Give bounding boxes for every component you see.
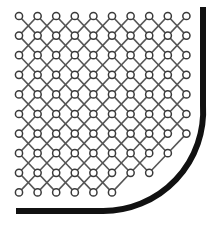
lattice-node: [127, 150, 134, 157]
lattice-node: [108, 110, 115, 117]
lattice-node: [108, 169, 115, 176]
lattice-node: [71, 150, 78, 157]
lattice-node: [34, 150, 41, 157]
lattice-node: [108, 91, 115, 98]
lattice-node: [90, 189, 97, 196]
lattice-node: [127, 91, 134, 98]
lattice-node: [164, 91, 171, 98]
lattice-node: [183, 130, 190, 137]
lattice-node: [71, 130, 78, 137]
lattice-node: [71, 169, 78, 176]
lattice-node: [183, 32, 190, 39]
lattice-node: [127, 32, 134, 39]
lattice-diagram: [0, 0, 224, 227]
lattice-node: [15, 110, 22, 117]
lattice-node: [164, 12, 171, 19]
lattice-node: [53, 150, 60, 157]
lattice-node: [71, 91, 78, 98]
lattice-node: [164, 71, 171, 78]
lattice-node: [127, 71, 134, 78]
lattice-node: [183, 52, 190, 59]
lattice-node: [108, 32, 115, 39]
lattice-node: [15, 91, 22, 98]
lattice-node: [34, 52, 41, 59]
lattice-node: [146, 130, 153, 137]
lattice-node: [164, 32, 171, 39]
lattice-node: [127, 12, 134, 19]
lattice-node: [90, 52, 97, 59]
lattice-node: [183, 110, 190, 117]
lattice-node: [71, 12, 78, 19]
lattice-node: [71, 32, 78, 39]
lattice-node: [15, 12, 22, 19]
lattice-node: [108, 52, 115, 59]
lattice-node: [146, 32, 153, 39]
lattice-node: [53, 169, 60, 176]
lattice-node: [15, 32, 22, 39]
lattice-node: [146, 150, 153, 157]
lattice-node: [127, 169, 134, 176]
lattice-node: [15, 71, 22, 78]
lattice-node: [34, 110, 41, 117]
lattice-node: [34, 91, 41, 98]
lattice-node: [146, 169, 153, 176]
lattice-node: [15, 169, 22, 176]
lattice-node: [90, 91, 97, 98]
lattice-node: [34, 71, 41, 78]
lattice-node: [34, 189, 41, 196]
lattice-node: [34, 12, 41, 19]
lattice-node: [183, 12, 190, 19]
lattice-node: [53, 91, 60, 98]
lattice-node: [183, 91, 190, 98]
lattice-node: [90, 12, 97, 19]
lattice-node: [34, 169, 41, 176]
lattice-node: [164, 150, 171, 157]
lattice-node: [15, 189, 22, 196]
lattice-node: [90, 110, 97, 117]
lattice-links: [19, 16, 186, 192]
lattice-node: [164, 130, 171, 137]
lattice-node: [53, 71, 60, 78]
lattice-node: [146, 110, 153, 117]
lattice-node: [53, 130, 60, 137]
lattice-node: [53, 52, 60, 59]
lattice-node: [146, 91, 153, 98]
lattice-node: [71, 110, 78, 117]
lattice-node: [90, 71, 97, 78]
lattice-node: [108, 189, 115, 196]
lattice-node: [108, 12, 115, 19]
lattice-node: [164, 52, 171, 59]
lattice-node: [53, 32, 60, 39]
lattice-node: [71, 71, 78, 78]
lattice-node: [146, 12, 153, 19]
lattice-node: [34, 32, 41, 39]
lattice-node: [108, 71, 115, 78]
lattice-node: [90, 150, 97, 157]
lattice-node: [127, 52, 134, 59]
lattice-node: [90, 130, 97, 137]
lattice-node: [15, 130, 22, 137]
lattice-node: [34, 130, 41, 137]
lattice-node: [146, 71, 153, 78]
lattice-node: [127, 110, 134, 117]
lattice-node: [90, 32, 97, 39]
lattice-node: [71, 52, 78, 59]
lattice-node: [53, 189, 60, 196]
lattice-node: [15, 150, 22, 157]
lattice-node: [164, 110, 171, 117]
lattice-node: [146, 52, 153, 59]
lattice-node: [53, 110, 60, 117]
lattice-node: [71, 189, 78, 196]
lattice-node: [127, 130, 134, 137]
lattice-node: [90, 169, 97, 176]
lattice-node: [53, 12, 60, 19]
lattice-node: [183, 71, 190, 78]
lattice-node: [108, 130, 115, 137]
diagram-canvas: [0, 0, 224, 227]
lattice-node: [15, 52, 22, 59]
lattice-node: [108, 150, 115, 157]
